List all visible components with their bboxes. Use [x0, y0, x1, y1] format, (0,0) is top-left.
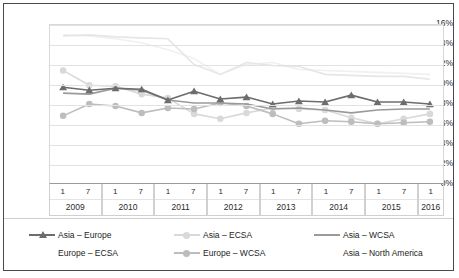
- legend-item[interactable]: Asia – Europe: [29, 227, 118, 243]
- x-axis-year-group: 172010: [102, 184, 155, 216]
- chart-frame: 16%14%12%10%8%6%4%2%0% 17200917201017201…: [3, 3, 454, 271]
- chart-legend: Asia – EuropeEurope – ECSAAsia – ECSAEur…: [4, 218, 453, 271]
- x-axis: 1720091720101720111720121720131720141720…: [49, 184, 444, 216]
- x-axis-month-label: 1: [50, 184, 75, 199]
- x-axis-year-label: 2012: [208, 199, 259, 216]
- x-axis-month-label: 7: [128, 184, 153, 199]
- series-marker: [269, 111, 276, 118]
- series-marker: [60, 67, 67, 74]
- series-marker: [60, 113, 67, 120]
- x-axis-year-group: 172009: [49, 184, 102, 216]
- x-axis-month-label: 7: [233, 184, 258, 199]
- series-marker: [296, 106, 303, 113]
- x-axis-year-label: 2015: [366, 199, 417, 216]
- series-marker: [191, 106, 198, 113]
- x-axis-year-label: 2016: [419, 199, 443, 216]
- legend-swatch: [29, 229, 55, 241]
- legend-label: Europe – WCSA: [203, 248, 265, 258]
- gridline: [50, 65, 443, 66]
- x-axis-month-label: 7: [391, 184, 416, 199]
- legend-item[interactable]: Europe – WCSA: [174, 245, 265, 261]
- series-marker: [296, 120, 303, 127]
- gridline: [50, 105, 443, 106]
- legend-label: Asia – WCSA: [343, 230, 395, 240]
- x-axis-month-label: 7: [181, 184, 206, 199]
- gridline: [50, 165, 443, 166]
- x-axis-month-label: 1: [261, 184, 286, 199]
- x-axis-month-label: 1: [419, 184, 443, 199]
- legend-triangle-marker: [39, 231, 47, 238]
- legend-column: Asia – ECSAEurope – WCSA: [174, 227, 265, 263]
- legend-column: Asia – WCSAAsia – North America: [314, 227, 423, 263]
- gridline: [50, 25, 443, 26]
- x-axis-year-label: 2010: [103, 199, 154, 216]
- x-axis-month-label: 1: [366, 184, 391, 199]
- x-axis-year-group: 172012: [207, 184, 260, 216]
- x-axis-month-label: 1: [103, 184, 128, 199]
- series-marker: [243, 110, 250, 117]
- gridline: [50, 145, 443, 146]
- series-marker: [427, 111, 434, 118]
- series-lines: [50, 25, 443, 183]
- x-axis-year-label: 2013: [261, 199, 312, 216]
- series-marker: [217, 116, 224, 123]
- x-axis-year-group: 172014: [312, 184, 365, 216]
- legend-swatch: [174, 247, 200, 259]
- gridline: [50, 85, 443, 86]
- legend-item[interactable]: Asia – WCSA: [314, 227, 423, 243]
- series-marker: [86, 101, 93, 108]
- x-axis-year-group: 172011: [154, 184, 207, 216]
- x-axis-month-label: 7: [339, 184, 364, 199]
- chart-plot-region: 16%14%12%10%8%6%4%2%0% 17200917201017201…: [4, 4, 453, 217]
- gridline: [50, 125, 443, 126]
- x-axis-year-label: 2014: [313, 199, 364, 216]
- legend-label: Asia – ECSA: [203, 230, 252, 240]
- x-axis-month-label: 7: [75, 184, 100, 199]
- legend-item[interactable]: Asia – ECSA: [174, 227, 265, 243]
- plot-area: [49, 24, 444, 184]
- gridline: [50, 45, 443, 46]
- legend-line: [314, 234, 340, 236]
- legend-item[interactable]: Europe – ECSA: [29, 245, 118, 261]
- x-axis-month-label: 7: [286, 184, 311, 199]
- legend-label: Europe – ECSA: [58, 248, 118, 258]
- series-marker: [322, 118, 329, 125]
- x-axis-month-label: 1: [208, 184, 233, 199]
- legend-label: Asia – Europe: [58, 230, 111, 240]
- x-axis-year-group: 172013: [260, 184, 313, 216]
- series-marker: [190, 88, 198, 95]
- legend-circle-marker: [183, 250, 190, 257]
- x-axis-year-label: 2009: [50, 199, 101, 216]
- legend-column: Asia – EuropeEurope – ECSA: [29, 227, 118, 263]
- legend-item[interactable]: Asia – North America: [314, 245, 423, 261]
- series-marker: [138, 110, 145, 117]
- legend-circle-marker: [183, 232, 190, 239]
- legend-swatch: [174, 229, 200, 241]
- x-axis-month-label: 1: [155, 184, 180, 199]
- series-marker: [374, 120, 381, 127]
- x-axis-year-group: 172015: [365, 184, 418, 216]
- x-axis-month-label: 1: [313, 184, 338, 199]
- series-marker: [347, 92, 355, 99]
- legend-label: Asia – North America: [343, 248, 423, 258]
- x-axis-year-label: 2011: [155, 199, 206, 216]
- series-line: [63, 35, 430, 75]
- x-axis-year-group: 12016: [418, 184, 444, 216]
- legend-swatch: [314, 229, 340, 241]
